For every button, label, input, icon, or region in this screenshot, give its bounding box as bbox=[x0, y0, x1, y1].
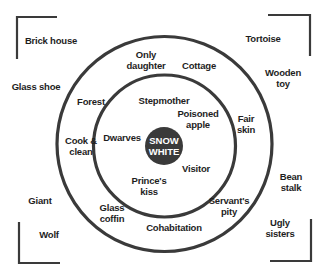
inner-label-visitor: Visitor bbox=[182, 163, 210, 174]
outer-label-only-daughter: Only daughter bbox=[126, 49, 165, 71]
outer-label-glass-coffin: Glass coffin bbox=[100, 202, 125, 224]
center-label: SNOW WHITE bbox=[149, 135, 180, 157]
inner-label-princes-kiss: Prince's kiss bbox=[132, 175, 167, 197]
outer-label-cottage: Cottage bbox=[182, 60, 216, 71]
inner-label-poisoned-apple: Poisoned apple bbox=[177, 108, 218, 130]
outside-label-brick-house: Brick house bbox=[25, 35, 77, 46]
inner-label-stepmother: Stepmother bbox=[139, 95, 190, 106]
outer-label-cook-clean: Cook & clean bbox=[65, 135, 97, 157]
outer-label-fair-skin: Fair skin bbox=[237, 113, 255, 135]
outer-label-cohabitation: Cohabitation bbox=[146, 222, 202, 233]
outside-label-ugly-sisters: Ugly sisters bbox=[255, 217, 305, 239]
outside-label-glass-shoe: Glass shoe bbox=[12, 81, 61, 92]
outside-label-tortoise: Tortoise bbox=[245, 33, 280, 44]
outside-label-giant: Giant bbox=[28, 195, 51, 206]
outside-label-wooden-toy: Wooden toy bbox=[260, 67, 307, 89]
outside-label-wolf: Wolf bbox=[39, 229, 59, 240]
outer-label-servants-pity: Servant's pity bbox=[209, 195, 250, 217]
outside-label-bean-stalk: Bean stalk bbox=[272, 171, 311, 193]
outer-label-forest: Forest bbox=[77, 96, 105, 107]
inner-label-dwarves: Dwarves bbox=[103, 132, 141, 143]
